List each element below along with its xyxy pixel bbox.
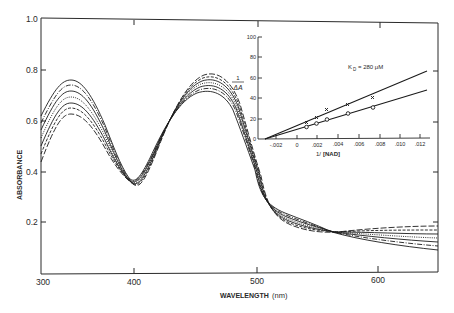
inset-x-axis-label: 1/ [NAD] — [316, 151, 340, 157]
inset-y-tick-40: 40 — [250, 95, 256, 101]
x-tick-300: 300 — [36, 277, 50, 287]
inset-xlabel-pre: 1/ — [316, 151, 321, 157]
inset-x-tick-004: .004 — [333, 141, 344, 147]
y-tick-0.2: 0.2 — [26, 217, 38, 227]
x-tick-400: 400 — [127, 277, 141, 287]
inset-y-axis-label: 1 ΔA — [232, 75, 244, 91]
inset-x-tick-neg002: -.002 — [270, 142, 283, 148]
x-axis-label-unit: (nm) — [272, 291, 288, 300]
inset-y-tick-labels: 100 80 60 40 20 0 — [247, 34, 256, 142]
main-y-axis-label: ABSORBANCE — [16, 150, 23, 201]
main-x-axis — [41, 272, 438, 274]
x-axis-label-text: WAVELENGTH — [220, 292, 269, 299]
kd-label: K — [348, 64, 352, 70]
inset-x-tick-002: .002 — [312, 142, 323, 148]
x-tick-500: 500 — [250, 276, 264, 286]
inset-y-tick-100: 100 — [247, 34, 256, 40]
y-tick-0.6: 0.6 — [26, 116, 38, 126]
main-top-frame — [41, 18, 438, 23]
inset-x-tick-012: .012 — [415, 141, 426, 147]
inset-y-tick-0: 0 — [253, 136, 256, 142]
inset-y-tick-60: 60 — [250, 75, 256, 81]
inset-y-tick-20: 20 — [250, 116, 256, 122]
kd-value: = 280 μM — [358, 64, 383, 70]
inset-y-tick-80: 80 — [250, 54, 256, 60]
x-tick-600: 600 — [371, 275, 385, 285]
main-x-axis-label: WAVELENGTH (nm) — [220, 291, 288, 300]
inset-ylabel-numerator: 1 — [236, 75, 240, 81]
inset-ylabel-denominator: ΔA — [232, 84, 243, 91]
main-x-tick-labels: 300 400 500 600 — [36, 275, 385, 287]
main-y-tick-labels: 1.0 0.8 0.6 0.4 0.2 — [26, 14, 38, 227]
inset-xlabel-nad: [NAD] — [323, 151, 340, 157]
inset-x-tick-006: .006 — [354, 141, 365, 147]
inset-x-tick-008: .008 — [375, 141, 386, 147]
y-tick-0.8: 0.8 — [26, 65, 38, 75]
inset-plot: 100 80 60 40 20 0 -.002 0 .002 .004 .006… — [232, 34, 430, 157]
figure: 1.0 0.8 0.6 0.4 0.2 300 400 500 600 ABSO… — [0, 0, 454, 313]
inset-x-tick-labels: -.002 0 .002 .004 .006 .008 .010 .012 — [270, 141, 426, 148]
inset-x-tick-010: .010 — [395, 141, 406, 147]
y-tick-1.0: 1.0 — [26, 14, 38, 24]
inset-x-tick-0: 0 — [295, 142, 298, 148]
y-tick-0.4: 0.4 — [26, 167, 38, 177]
